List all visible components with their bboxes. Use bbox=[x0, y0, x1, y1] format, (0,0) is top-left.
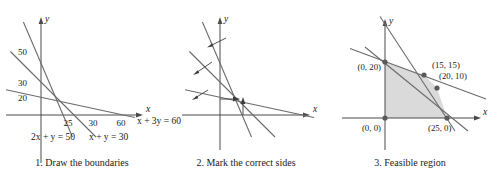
y-axis-label: y bbox=[388, 16, 394, 26]
vertex-dot-15-15 bbox=[421, 72, 426, 77]
y-tick-50: 50 bbox=[18, 47, 28, 57]
vertex-label-25-0: (25, 0) bbox=[428, 123, 452, 133]
x-tick-30: 30 bbox=[89, 118, 99, 128]
vertex-label-0-20: (0, 20) bbox=[358, 62, 382, 72]
vertex-dot-20-10 bbox=[434, 85, 439, 90]
y-axis-label: y bbox=[44, 14, 50, 24]
vertex-label-15-15: (15, 15) bbox=[432, 60, 460, 70]
x-axis-arrowhead bbox=[474, 116, 481, 121]
x-tick-25: 25 bbox=[64, 118, 74, 128]
vertex-dot-0-20 bbox=[382, 59, 387, 64]
y-tick-30: 30 bbox=[18, 78, 28, 88]
panel-3-caption: 3. Feasible region bbox=[328, 157, 492, 168]
panel-3-graph: (0, 20) (15, 15) (20, 10) (25, 0) (0, 0)… bbox=[328, 0, 492, 172]
vertex-dot-0-0 bbox=[382, 115, 387, 120]
y-axis-label: y bbox=[223, 14, 229, 24]
linear-programming-figure: 50 30 20 25 30 60 x y x + 3y = 60 2x + y… bbox=[0, 0, 492, 172]
line-x-plus-3y-60 bbox=[185, 90, 314, 118]
panel-2-caption: 2. Mark the correct sides bbox=[164, 157, 328, 168]
vertex-label-0-0: (0, 0) bbox=[362, 123, 381, 133]
x-axis-label: x bbox=[145, 104, 151, 114]
x-tick-60: 60 bbox=[117, 118, 127, 128]
line-x-plus-y-30 bbox=[189, 52, 275, 138]
panel-mark-the-correct-sides: x y 2. Mark the correct sides bbox=[164, 0, 328, 172]
panel-2-graph: x y bbox=[164, 0, 328, 172]
panel-1-graph: 50 30 20 25 30 60 x y x + 3y = 60 2x + y… bbox=[0, 0, 164, 172]
x-axis-label: x bbox=[482, 107, 488, 117]
panel-1-caption: 1. Draw the boundaries bbox=[0, 157, 164, 168]
y-tick-20: 20 bbox=[18, 93, 28, 103]
equation-label-x-plus-y-30: x + y = 30 bbox=[89, 132, 128, 142]
line-2x-plus-y-50 bbox=[202, 22, 251, 137]
equation-label-2x-plus-y-50: 2x + y = 50 bbox=[31, 132, 75, 142]
y-axis-arrowhead bbox=[39, 17, 44, 24]
panel-draw-the-boundaries: 50 30 20 25 30 60 x y x + 3y = 60 2x + y… bbox=[0, 0, 164, 172]
vertex-dot-25-0 bbox=[444, 115, 449, 120]
y-axis-arrowhead bbox=[218, 17, 223, 24]
x-axis-label: x bbox=[312, 104, 318, 114]
vertex-label-20-10: (20, 10) bbox=[439, 71, 467, 81]
panel-feasible-region: (0, 20) (15, 15) (20, 10) (25, 0) (0, 0)… bbox=[328, 0, 492, 172]
